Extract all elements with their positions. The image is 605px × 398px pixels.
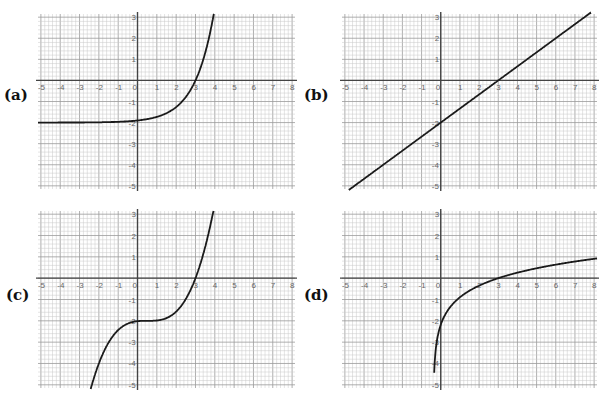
x-tick-label: 6: [251, 281, 256, 290]
x-tick-label: -4: [57, 83, 65, 92]
y-tick-label: 3: [132, 210, 137, 219]
x-tick-label: 1: [155, 83, 160, 92]
x-tick-label: 2: [174, 281, 179, 290]
x-tick-label: -1: [115, 83, 123, 92]
x-tick-label: 5: [535, 281, 540, 290]
x-tick-label: 8: [290, 281, 295, 290]
y-tick-label: -4: [129, 161, 137, 170]
x-tick-label: 6: [554, 281, 559, 290]
x-tick-label: -1: [115, 281, 123, 290]
x-tick-label: -3: [380, 281, 388, 290]
y-tick-label: 2: [435, 232, 440, 241]
y-tick-label: 1: [435, 55, 440, 64]
x-tick-label: -1: [419, 281, 427, 290]
y-tick-label: -5: [432, 381, 440, 390]
x-tick-label: 6: [554, 83, 559, 92]
graph-d: -5-4-3-2-1012345678321-1-2-3-4-5: [340, 209, 599, 390]
x-tick-label: -1: [419, 83, 427, 92]
x-tick-label: 0: [436, 281, 441, 290]
x-tick-label: 4: [515, 281, 520, 290]
x-tick-label: -2: [96, 83, 104, 92]
grid-c: [38, 211, 295, 388]
grid-d: [342, 211, 597, 388]
x-tick-label: 0: [133, 83, 138, 92]
graph-a: -5-4-3-2-1012345678321-1-2-3-4-5-5-4-3-2…: [0, 0, 605, 398]
graph-c: -5-4-3-2-1012345678321-1-2-3-4-5: [36, 209, 297, 390]
y-tick-label: 1: [435, 253, 440, 262]
grid-a: [38, 14, 295, 189]
y-tick-label: 3: [435, 210, 440, 219]
x-tick-label: 3: [496, 281, 501, 290]
x-tick-label: 1: [458, 83, 463, 92]
x-tick-label: 1: [458, 281, 463, 290]
x-tick-label: 7: [573, 83, 578, 92]
graph-b: -5-4-3-2-1012345678321-1-2-3-4-5: [340, 12, 599, 191]
x-tick-label: -4: [57, 281, 65, 290]
x-tick-label: -3: [77, 83, 85, 92]
x-tick-label: 2: [174, 83, 179, 92]
x-tick-label: 2: [477, 83, 482, 92]
x-tick-label: 8: [290, 83, 295, 92]
x-tick-label: 7: [573, 281, 578, 290]
y-tick-label: 3: [435, 13, 440, 22]
x-tick-label: 5: [232, 281, 237, 290]
y-tick-label: -3: [129, 338, 137, 347]
y-tick-label: -5: [432, 182, 440, 191]
y-tick-label: 2: [132, 232, 137, 241]
y-tick-label: -1: [129, 296, 137, 305]
x-tick-label: -5: [38, 281, 46, 290]
y-tick-label: 2: [435, 34, 440, 43]
x-tick-label: 3: [496, 83, 501, 92]
x-tick-label: 8: [592, 83, 597, 92]
x-tick-label: -2: [399, 83, 407, 92]
y-tick-label: -1: [129, 98, 137, 107]
x-tick-label: 4: [213, 281, 218, 290]
x-tick-label: -5: [38, 83, 46, 92]
y-tick-label: -1: [432, 296, 440, 305]
x-tick-label: -2: [399, 281, 407, 290]
y-tick-label: 1: [132, 55, 137, 64]
x-tick-label: -5: [342, 83, 350, 92]
y-tick-label: 3: [132, 13, 137, 22]
x-tick-label: 1: [155, 281, 160, 290]
x-tick-label: 5: [232, 83, 237, 92]
x-tick-label: 7: [271, 281, 276, 290]
y-tick-label: -2: [432, 317, 440, 326]
y-tick-label: 1: [132, 253, 137, 262]
y-tick-label: -4: [129, 359, 137, 368]
curve-d: [434, 258, 597, 372]
x-tick-label: -4: [361, 83, 369, 92]
y-tick-label: -4: [432, 161, 440, 170]
x-tick-label: 8: [592, 281, 597, 290]
y-tick-label: 2: [132, 34, 137, 43]
x-tick-label: 6: [251, 83, 256, 92]
x-tick-label: -3: [77, 281, 85, 290]
x-tick-label: 7: [271, 83, 276, 92]
x-tick-label: -2: [96, 281, 104, 290]
x-tick-label: 0: [133, 281, 138, 290]
graph-a: -5-4-3-2-1012345678321-1-2-3-4-5: [36, 12, 297, 191]
x-tick-label: 4: [515, 83, 520, 92]
x-tick-label: 0: [436, 83, 441, 92]
x-tick-label: -3: [380, 83, 388, 92]
x-tick-label: 4: [213, 83, 218, 92]
y-tick-label: -5: [129, 381, 137, 390]
x-tick-label: 5: [535, 83, 540, 92]
y-tick-label: -3: [432, 140, 440, 149]
x-tick-label: -4: [361, 281, 369, 290]
y-tick-label: -3: [129, 140, 137, 149]
x-tick-label: -5: [342, 281, 350, 290]
y-tick-label: -5: [129, 182, 137, 191]
y-tick-label: -1: [432, 98, 440, 107]
